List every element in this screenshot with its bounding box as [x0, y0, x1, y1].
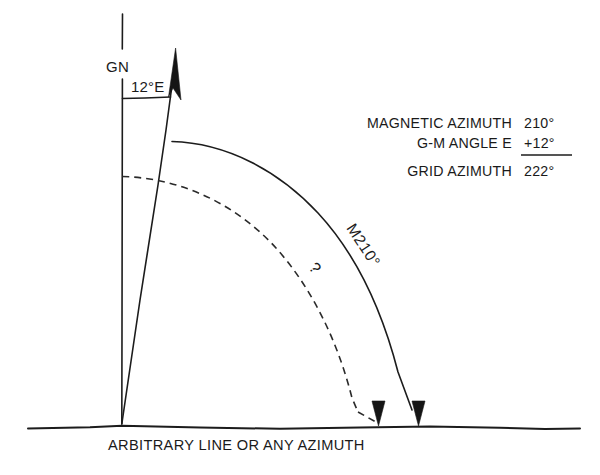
computation-row-label-2: GRID AZIMUTH: [407, 163, 512, 179]
gm-angle-tie-line: [122, 97, 170, 99]
computation-row-value-2: 222°: [524, 163, 554, 179]
grid-arc-label: ?: [306, 259, 325, 277]
grid-north-line-lower: [122, 79, 123, 424]
computation-row-value-1: +12°: [524, 135, 555, 151]
magnetic-north-line: [122, 74, 174, 424]
computation-row-label-0: MAGNETIC AZIMUTH: [367, 115, 512, 131]
computation-row-label-1: G-M ANGLE E: [417, 135, 512, 151]
baseline: [28, 426, 580, 429]
gm-angle-label: 12°E: [131, 78, 165, 95]
computation-table: MAGNETIC AZIMUTH 210° G-M ANGLE E +12° G…: [367, 115, 572, 179]
grid-azimuth-arc: [122, 177, 358, 413]
grid-north-label: GN: [106, 58, 129, 75]
grid-arc-tail: [358, 412, 376, 422]
magnetic-arc-arrowhead-icon: [412, 401, 425, 426]
computation-row-value-0: 210°: [524, 115, 554, 131]
azimuth-diagram: GN 12°E M210° ? ARBITRARY LINE OR ANY AZ…: [0, 0, 600, 475]
baseline-label: ARBITRARY LINE OR ANY AZIMUTH: [108, 437, 365, 453]
magnetic-azimuth-arc: [172, 142, 412, 411]
grid-arc-arrowhead-icon: [372, 401, 385, 426]
magnetic-arc-label: M210°: [343, 220, 383, 270]
diagram-canvas: GN 12°E M210° ? ARBITRARY LINE OR ANY AZ…: [0, 0, 600, 475]
magnetic-north-arrowhead-icon: [169, 48, 182, 100]
